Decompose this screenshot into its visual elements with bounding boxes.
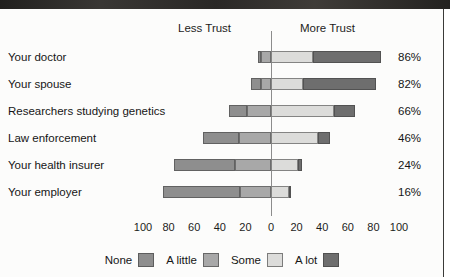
bar-track	[0, 43, 444, 70]
page-top-band	[0, 0, 450, 9]
legend-item: Some	[231, 253, 283, 267]
x-axis-tick-label: 40	[214, 221, 226, 233]
bar-segment	[334, 105, 356, 117]
less-trust-heading: Less Trust	[178, 22, 231, 34]
bar-segment	[261, 78, 271, 90]
x-axis-tick-label: 40	[316, 221, 328, 233]
legend-item: A lot	[295, 253, 339, 267]
bar-segment	[318, 132, 330, 144]
bar-row: Researchers studying genetics66%	[0, 97, 444, 124]
x-axis-tick-label: 20	[239, 221, 251, 233]
bar-value-label: 24%	[398, 159, 421, 171]
bar-segment	[203, 132, 239, 144]
bar-segment	[235, 159, 271, 171]
legend-swatch	[203, 253, 219, 267]
x-axis-tick-label: 100	[134, 221, 152, 233]
legend-item-label: Some	[231, 254, 261, 266]
bar-value-label: 66%	[398, 105, 421, 117]
bar-value-label: 46%	[398, 132, 421, 144]
bar-segment	[163, 186, 240, 198]
x-axis-tick-label: 60	[188, 221, 200, 233]
page-right-margin	[444, 9, 450, 277]
bar-row: Your spouse82%	[0, 70, 444, 97]
bar-segment	[258, 51, 261, 63]
chart-legend: NoneA littleSomeA lot	[0, 249, 444, 271]
bar-track	[0, 70, 444, 97]
legend-swatch	[138, 253, 154, 267]
legend-item: A little	[166, 253, 219, 267]
bar-segment	[229, 105, 247, 117]
bar-track	[0, 124, 444, 151]
bar-segment	[240, 186, 271, 198]
bar-segment	[289, 186, 292, 198]
bar-segment	[261, 51, 271, 63]
bar-value-label: 16%	[398, 186, 421, 198]
legend-item-label: None	[105, 254, 133, 266]
x-axis-tick-label: 60	[342, 221, 354, 233]
legend-swatch	[267, 253, 283, 267]
bar-segment	[271, 132, 318, 144]
bar-segment	[313, 51, 381, 63]
x-axis-tick-label: 80	[162, 221, 174, 233]
bar-segment	[271, 105, 334, 117]
legend-item-label: A little	[166, 254, 197, 266]
bar-track	[0, 178, 444, 205]
x-axis-tick-label: 80	[367, 221, 379, 233]
bar-segment	[271, 159, 298, 171]
legend-swatch	[323, 253, 339, 267]
bar-row: Your employer16%	[0, 178, 444, 205]
bar-value-label: 86%	[398, 51, 421, 63]
bar-row: Law enforcement46%	[0, 124, 444, 151]
x-axis-tick-label: 20	[290, 221, 302, 233]
bar-value-label: 82%	[398, 78, 421, 90]
x-axis-tick-label: 0	[268, 221, 274, 233]
bar-segment	[271, 51, 313, 63]
x-axis: 10080604020020406080100	[0, 221, 444, 239]
x-axis-tick-label: 100	[390, 221, 408, 233]
bar-track	[0, 97, 444, 124]
bar-segment	[271, 78, 303, 90]
chart-figure: Less Trust More Trust Your doctor86%Your…	[0, 0, 450, 277]
bar-row: Your doctor86%	[0, 43, 444, 70]
bar-segment	[303, 78, 376, 90]
bar-segment	[251, 78, 261, 90]
more-trust-heading: More Trust	[300, 22, 355, 34]
bar-segment	[174, 159, 235, 171]
bar-segment	[271, 186, 289, 198]
legend-item: None	[105, 253, 155, 267]
bar-segment	[247, 105, 271, 117]
page-top-band-shading	[0, 0, 450, 9]
bar-segment	[298, 159, 302, 171]
plot-area: Less Trust More Trust Your doctor86%Your…	[0, 9, 444, 277]
bar-track	[0, 151, 444, 178]
bar-segment	[239, 132, 271, 144]
legend-item-label: A lot	[295, 254, 317, 266]
bar-row: Your health insurer24%	[0, 151, 444, 178]
